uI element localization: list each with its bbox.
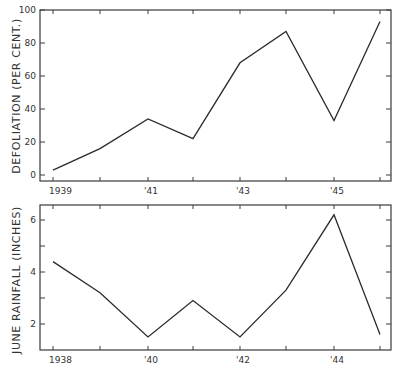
x-tick-label: '45 — [330, 186, 344, 196]
x-tick-label: '40 — [144, 355, 158, 365]
y-tick-label: 80 — [25, 38, 37, 48]
x-tick-label: '44 — [330, 355, 344, 365]
figure: 1939'41'43'45 020406080100 DEFOLIATION (… — [0, 0, 403, 369]
x-tick-label: '43 — [236, 186, 250, 196]
x-tick-label: '41 — [144, 186, 158, 196]
bottom-x-tick-labels: 1938'40'42'44 — [49, 355, 344, 365]
y-tick-label: 40 — [25, 104, 37, 114]
defoliation-line — [53, 22, 380, 171]
top-plot-frame — [40, 10, 391, 181]
rainfall-chart: 1938'40'42'44 246 JUNE RAINFALL (INCHES) — [10, 205, 391, 365]
bottom-y-tick-labels: 246 — [30, 215, 36, 329]
defoliation-chart: 1939'41'43'45 020406080100 DEFOLIATION (… — [10, 5, 391, 196]
top-ticks — [40, 10, 391, 181]
y-tick-label: 0 — [30, 170, 36, 180]
rainfall-line — [53, 215, 380, 337]
x-tick-label: 1938 — [49, 355, 72, 365]
y-tick-label: 60 — [25, 71, 37, 81]
x-tick-label: '42 — [236, 355, 250, 365]
x-tick-label: 1939 — [49, 186, 72, 196]
y-tick-label: 20 — [25, 137, 37, 147]
bottom-y-axis-label: JUNE RAINFALL (INCHES) — [10, 206, 23, 355]
y-tick-label: 2 — [30, 319, 36, 329]
top-x-tick-labels: 1939'41'43'45 — [49, 186, 344, 196]
y-tick-label: 100 — [19, 5, 36, 15]
y-tick-label: 4 — [30, 267, 36, 277]
y-tick-label: 6 — [30, 215, 36, 225]
top-y-axis-label: DEFOLIATION (PER CENT.) — [10, 18, 23, 174]
